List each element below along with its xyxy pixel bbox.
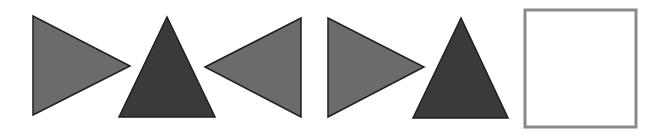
triangle-up-icon <box>413 18 508 118</box>
triangle-up-icon <box>119 17 215 117</box>
triangle-right-icon <box>33 16 130 115</box>
shapes-canvas <box>0 0 665 138</box>
shape-sequence-diagram <box>0 0 665 138</box>
triangle-right-icon <box>328 18 424 117</box>
empty-answer-square <box>525 10 636 127</box>
triangle-left-icon <box>205 18 301 117</box>
